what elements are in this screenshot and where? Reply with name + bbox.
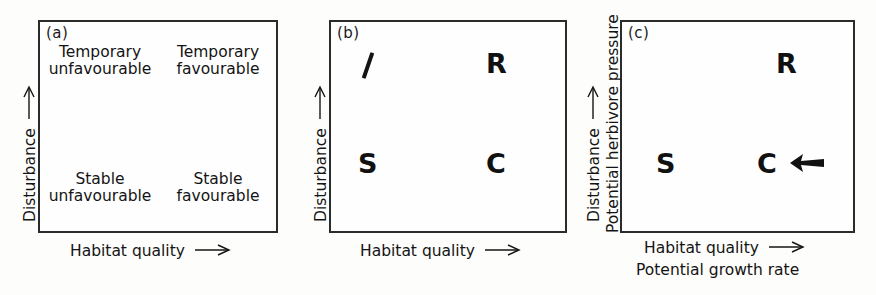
quadrant-line-1: Stable <box>162 171 274 188</box>
panel-b-tag: (b) <box>337 24 360 42</box>
quadrant-line-1: Temporary <box>44 44 156 61</box>
panel-a-tag: (a) <box>46 24 68 42</box>
panel-a: (a) Temporary unfavourable Temporary fav… <box>0 0 290 295</box>
panel-c-marker-r: R <box>776 50 797 77</box>
panel-c-x-axis-upper-text: Habitat quality <box>644 239 759 257</box>
up-arrow-icon <box>586 85 604 119</box>
panel-b-frame <box>329 20 567 233</box>
panel-c-tag: (c) <box>628 24 649 42</box>
panel-c-y-axis-label-inner: Potential herbivore pressure <box>605 14 623 233</box>
panel-a-quadrant-bottom-right: Stable favourable <box>162 171 274 206</box>
right-arrow-icon <box>485 243 521 261</box>
panel-c-y-axis-label-outer: Disturbance <box>586 85 604 222</box>
panel-c-x-axis-label-upper: Habitat quality <box>644 240 805 258</box>
panel-b-marker-r: R <box>486 50 507 77</box>
up-arrow-icon <box>313 85 331 119</box>
panel-b-y-axis-label: Disturbance <box>313 85 331 222</box>
panel-c-frame <box>620 20 855 233</box>
right-arrow-icon <box>195 243 231 261</box>
panel-a-quadrant-top-left: Temporary unfavourable <box>44 44 156 79</box>
panel-c-x-axis-label-lower: Potential growth rate <box>636 262 799 280</box>
panel-a-quadrant-bottom-left: Stable unfavourable <box>44 171 156 206</box>
quadrant-line-2: unfavourable <box>44 61 156 78</box>
quadrant-line-1: Temporary <box>162 44 274 61</box>
panel-b-marker-c: C <box>486 150 506 177</box>
panel-b-x-axis-text: Habitat quality <box>360 242 475 260</box>
quadrant-line-2: favourable <box>162 188 274 205</box>
panel-b-x-axis-label: Habitat quality <box>360 243 521 261</box>
up-arrow-icon <box>22 85 40 119</box>
panel-c: (c) R S C Disturbance Potential herbivor… <box>580 0 876 295</box>
quadrant-line-2: favourable <box>162 61 274 78</box>
panel-c-marker-s: S <box>656 150 675 177</box>
panel-a-x-axis-label: Habitat quality <box>70 243 231 261</box>
panel-c-y-axis-outer-text: Disturbance <box>585 128 603 222</box>
panel-b: (b) R S C Disturbance Habitat quality <box>290 0 580 295</box>
panel-a-y-axis-label: Disturbance <box>22 85 40 222</box>
panel-c-marker-c: C <box>757 150 777 177</box>
three-panel-figure: (a) Temporary unfavourable Temporary fav… <box>0 0 876 295</box>
panel-b-marker-s: S <box>358 150 377 177</box>
quadrant-line-1: Stable <box>44 171 156 188</box>
panel-b-y-axis-text: Disturbance <box>312 128 330 222</box>
panel-a-quadrant-top-right: Temporary favourable <box>162 44 274 79</box>
bold-left-arrow-icon <box>788 152 826 174</box>
right-arrow-icon <box>769 240 805 258</box>
quadrant-line-2: unfavourable <box>44 188 156 205</box>
panel-a-y-axis-text: Disturbance <box>21 128 39 222</box>
panel-a-x-axis-text: Habitat quality <box>70 242 185 260</box>
